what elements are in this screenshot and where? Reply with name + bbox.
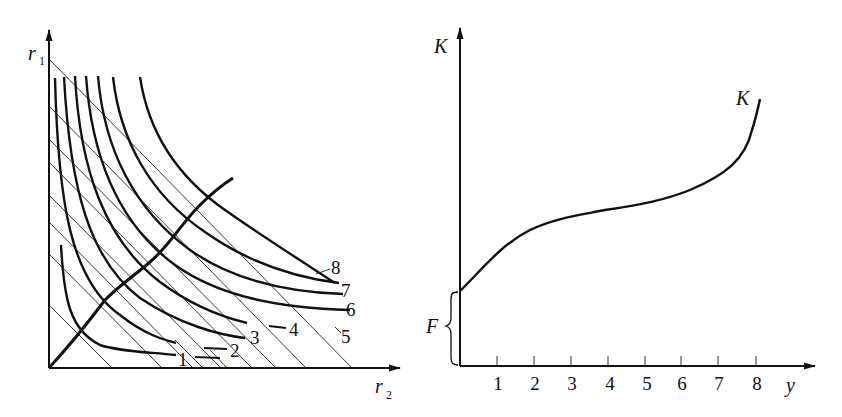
k-axis-label: K (433, 35, 449, 57)
x-tick-labels: 1 2 3 4 5 6 7 8 (493, 373, 762, 394)
svg-text:6: 6 (677, 373, 687, 394)
svg-text:2: 2 (530, 373, 540, 394)
r1-axis-label: r (28, 42, 36, 64)
isoquant-label-6: 6 (346, 299, 356, 320)
label-tick-1 (195, 357, 220, 358)
curve-label-k: K (735, 87, 751, 109)
label-tick-2 (204, 348, 227, 349)
isoquant-label-3: 3 (250, 327, 260, 348)
label-tick-4 (269, 326, 286, 328)
isoquant-5 (86, 76, 350, 310)
isoquant-4 (75, 76, 247, 323)
isoquant-label-4: 4 (289, 319, 299, 340)
expansion-path (49, 178, 233, 368)
isoquant-label-5: 5 (341, 326, 351, 347)
isoquant-2 (55, 78, 176, 343)
r2-axis-label: r (375, 375, 383, 397)
r1-axis-subscript: 1 (39, 54, 45, 68)
isoquant-label-8: 8 (331, 257, 341, 278)
y-axis-label: y (784, 374, 795, 397)
svg-text:3: 3 (567, 373, 577, 394)
r2-axis-subscript: 2 (386, 388, 392, 402)
isoquant-label-7: 7 (341, 280, 351, 301)
cost-curve-k (460, 99, 760, 291)
svg-text:4: 4 (605, 373, 615, 394)
isoquant-label-1: 1 (178, 349, 188, 370)
figure: r 1 r 2 1 2 3 4 5 6 7 8 1 2 3 (0, 0, 842, 417)
x-ticks (497, 356, 756, 366)
svg-text:7: 7 (714, 373, 724, 394)
cost-chart: 1 2 3 4 5 6 7 8 K y K F (425, 28, 815, 397)
fixed-cost-brace (446, 292, 458, 365)
isoquant-chart: r 1 r 2 1 2 3 4 5 6 7 8 (28, 30, 400, 402)
isocost-lines (49, 59, 352, 368)
isoquant-label-2: 2 (230, 340, 240, 361)
fixed-cost-label: F (425, 315, 439, 337)
svg-text:1: 1 (493, 373, 503, 394)
svg-text:8: 8 (752, 373, 762, 394)
svg-text:5: 5 (642, 373, 652, 394)
